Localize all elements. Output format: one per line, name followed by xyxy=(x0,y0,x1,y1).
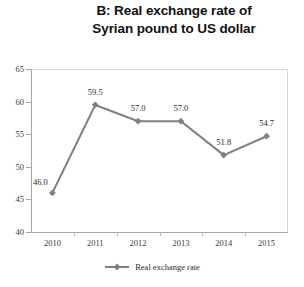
series-line xyxy=(52,105,266,193)
data-point-label: 54.7 xyxy=(259,118,274,128)
series-marker xyxy=(92,101,99,108)
legend-label: Real exchange rate xyxy=(135,262,200,272)
data-point-label: 51.8 xyxy=(216,137,231,147)
data-point-label: 57.0 xyxy=(131,103,146,113)
chart-legend: Real exchange rate xyxy=(0,262,304,272)
series-real-exchange-rate xyxy=(0,0,304,287)
legend-marker-icon xyxy=(104,262,130,272)
series-marker xyxy=(135,118,142,125)
series-marker xyxy=(263,133,270,140)
series-marker xyxy=(49,189,56,196)
data-point-label: 57.0 xyxy=(173,103,188,113)
data-point-label: 46.0 xyxy=(33,177,48,187)
data-point-label: 59.5 xyxy=(88,87,103,97)
